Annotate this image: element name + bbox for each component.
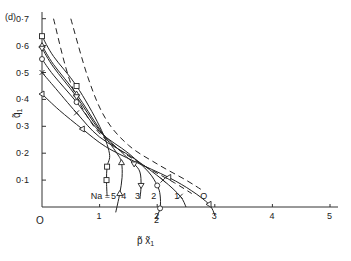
series-curve [54, 19, 192, 194]
na-annotation: 4 [121, 191, 126, 201]
chart-svg: 123450·10·20·30·40·50·60·7 (d) q̃1 O p̃ … [0, 0, 351, 261]
circle-marker [74, 100, 79, 105]
triangle-left-marker [166, 174, 171, 180]
markers [39, 34, 211, 211]
inverted-triangle-marker [138, 183, 144, 188]
cross-marker [74, 110, 79, 115]
axes: 123450·10·20·30·40·50·60·7 [16, 12, 338, 221]
y-tick-label: 0·3 [16, 121, 29, 131]
y-tick-label: 0·1 [16, 175, 29, 185]
square-marker [74, 83, 79, 88]
na-annotation: Na = [91, 191, 110, 201]
series-curve [71, 19, 203, 191]
curves [42, 19, 215, 218]
square-marker [105, 164, 110, 169]
cross-marker [160, 178, 165, 183]
na-annotation: 2 [151, 191, 156, 201]
y-tick-label: 0·6 [16, 41, 29, 51]
x-tick-label: 4 [269, 211, 274, 221]
y-tick-label: 0·4 [16, 94, 29, 104]
circle-marker [158, 206, 163, 211]
triangle-marker [118, 160, 124, 165]
circle-marker [40, 57, 45, 62]
chart: 123450·10·20·30·40·50·60·7 (d) q̃1 O p̃ … [0, 0, 351, 261]
na-annotation: 2 [154, 215, 159, 225]
origin-label: O [36, 215, 44, 226]
na-annotation: 1 [174, 191, 179, 201]
y-axis-label: q̃1 [11, 108, 23, 118]
square-marker [40, 34, 45, 39]
y-tick-label: 0·7 [16, 14, 29, 24]
na-labels: Na =54321O2 [91, 191, 207, 225]
na-annotation: 3 [135, 191, 140, 201]
series-curve [42, 36, 110, 196]
square-marker [104, 178, 109, 183]
x-axis-label: p̃ x̃1 [137, 235, 154, 247]
na-annotation: 5 [111, 191, 116, 201]
x-tick-label: 1 [97, 211, 102, 221]
y-tick-label: 0·2 [16, 148, 29, 158]
circle-marker [155, 183, 160, 188]
na-annotation: O [200, 191, 207, 201]
panel-label: (d) [5, 12, 16, 22]
series-curve [42, 73, 186, 208]
y-tick-label: 0·5 [16, 68, 29, 78]
x-tick-label: 5 [327, 211, 332, 221]
